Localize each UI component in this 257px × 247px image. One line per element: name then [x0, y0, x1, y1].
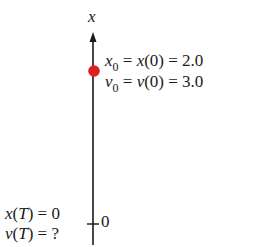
eq-var: x: [105, 51, 113, 70]
eq-func: v: [5, 224, 13, 243]
eq-rhs: = ?: [33, 224, 59, 243]
eq-var: v: [105, 72, 113, 91]
eq-arg: T: [18, 204, 27, 223]
eq-mid: =: [119, 51, 137, 70]
axis-arrow-icon: [90, 32, 97, 42]
eq-mid: =: [119, 72, 137, 91]
eq-sub: 0: [113, 81, 119, 95]
initial-velocity-equation: v0 = v(0) = 3.0: [105, 73, 203, 90]
final-position-equation: x(T) = 0: [5, 205, 60, 222]
initial-position-dot: [88, 65, 100, 77]
axis-label: x: [88, 8, 96, 25]
eq-rhs: = 3.0: [164, 72, 203, 91]
eq-rhs: = 2.0: [164, 51, 203, 70]
final-velocity-equation: v(T) = ?: [5, 225, 59, 242]
zero-tick-label: 0: [101, 213, 110, 230]
eq-arg: T: [18, 224, 27, 243]
eq-arg: (0): [144, 51, 164, 70]
eq-func: x: [5, 204, 13, 223]
eq-rhs: = 0: [33, 204, 60, 223]
eq-arg: (0): [144, 72, 164, 91]
initial-position-equation: x0 = x(0) = 2.0: [105, 52, 203, 69]
